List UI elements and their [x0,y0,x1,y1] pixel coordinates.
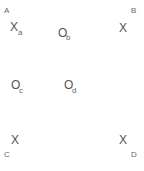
x-marker-corner-d: X [119,134,127,146]
subscript-d: d [72,87,76,95]
subscript-b: b [66,34,70,42]
x-marker-a: X [10,21,18,33]
corner-label-b: B [131,7,136,15]
subscript-a: a [18,29,22,37]
x-marker-corner-c: X [11,134,19,146]
x-marker-corner-b: X [119,22,127,34]
subscript-c: c [19,87,23,95]
corner-label-a: A [4,7,9,15]
corner-label-c: C [4,151,10,159]
corner-label-d: D [131,151,137,159]
